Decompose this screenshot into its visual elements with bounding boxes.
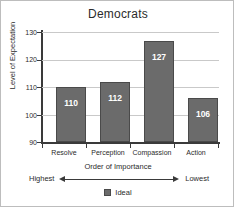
legend-label-ideal: Ideal (115, 188, 131, 197)
x-category-label-action: Action (174, 149, 218, 156)
bar-action[interactable]: 106 (188, 98, 218, 142)
gridline-120 (42, 60, 219, 61)
plot-area: 110 112 127 106 (42, 32, 219, 142)
bar-value-perception: 112 (101, 93, 129, 103)
legend-swatch-ideal (104, 189, 111, 196)
x-tick-mark-0 (42, 144, 43, 148)
gridline-130 (42, 32, 219, 33)
x-tick-mark-4 (218, 144, 219, 148)
legend: Ideal (1, 188, 234, 197)
lowest-label: Lowest (185, 174, 209, 183)
bar-resolve[interactable]: 110 (56, 87, 86, 142)
importance-direction-annotation: Highest Lowest (1, 173, 234, 185)
x-category-label-perception: Perception (86, 149, 130, 156)
y-tick-label-90: 90 (15, 139, 37, 146)
highest-label: Highest (29, 174, 54, 183)
bar-compassion[interactable]: 127 (144, 41, 174, 143)
y-tick-label-100: 100 (15, 112, 37, 119)
chart-figure: Democrats 130 120 110 100 90 Level of Ex… (0, 0, 234, 207)
y-tick-label-120: 120 (15, 56, 37, 63)
bar-value-compassion: 127 (145, 52, 173, 62)
x-tick-mark-3 (174, 144, 175, 148)
y-axis-title: Level of Expectation (8, 1, 17, 111)
arrow-line (65, 179, 173, 180)
x-axis-title: Order of Importance (1, 162, 234, 171)
x-category-label-compassion: Compassion (130, 149, 174, 156)
bar-value-resolve: 110 (57, 98, 85, 108)
bar-value-action: 106 (189, 109, 217, 119)
y-tick-label-130: 130 (15, 29, 37, 36)
x-tick-mark-2 (130, 144, 131, 148)
y-tick-label-110: 110 (15, 84, 37, 91)
bar-perception[interactable]: 112 (100, 82, 130, 143)
arrow-right-icon (173, 176, 179, 182)
x-category-label-resolve: Resolve (42, 149, 86, 156)
x-tick-mark-1 (86, 144, 87, 148)
page-title: Democrats (1, 7, 234, 21)
